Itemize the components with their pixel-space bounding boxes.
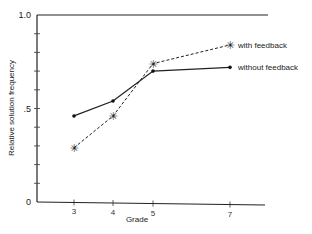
series-with-feedback: ✳✳✳✳with feedback	[69, 39, 288, 155]
asterisk-marker-icon: ✳	[148, 58, 157, 71]
x-tick-label: 3	[72, 207, 77, 216]
y-tick-label: 0	[26, 197, 31, 207]
asterisk-marker-icon: ✳	[69, 142, 78, 155]
series-line	[74, 67, 230, 116]
x-axis	[37, 202, 265, 205]
asterisk-marker-icon: ✳	[225, 39, 234, 52]
y-tick-label: 1.0	[18, 10, 31, 20]
series-group: ✳✳✳✳with feedbackwithout feedback	[69, 39, 299, 155]
dot-marker-icon	[111, 99, 115, 103]
y-axis-label: Relative solution frequency	[7, 60, 16, 156]
dot-marker-icon	[151, 69, 155, 73]
x-tick-label: 7	[228, 210, 233, 219]
asterisk-marker-icon: ✳	[108, 110, 117, 123]
dot-marker-icon	[72, 114, 76, 118]
legend-label: without feedback	[237, 63, 299, 72]
caption-fragment	[4, 226, 310, 234]
x-axis-label: Grade	[126, 215, 149, 224]
x-tick-label: 5	[151, 209, 156, 218]
x-tick-label: 4	[111, 208, 116, 217]
line-chart: 0.51.0 3457 Relative solution frequency …	[0, 0, 312, 234]
series-without-feedback: without feedback	[72, 63, 299, 117]
y-tick-label: .5	[23, 104, 31, 114]
dot-marker-icon	[228, 66, 232, 70]
legend-label: with feedback	[237, 41, 288, 50]
